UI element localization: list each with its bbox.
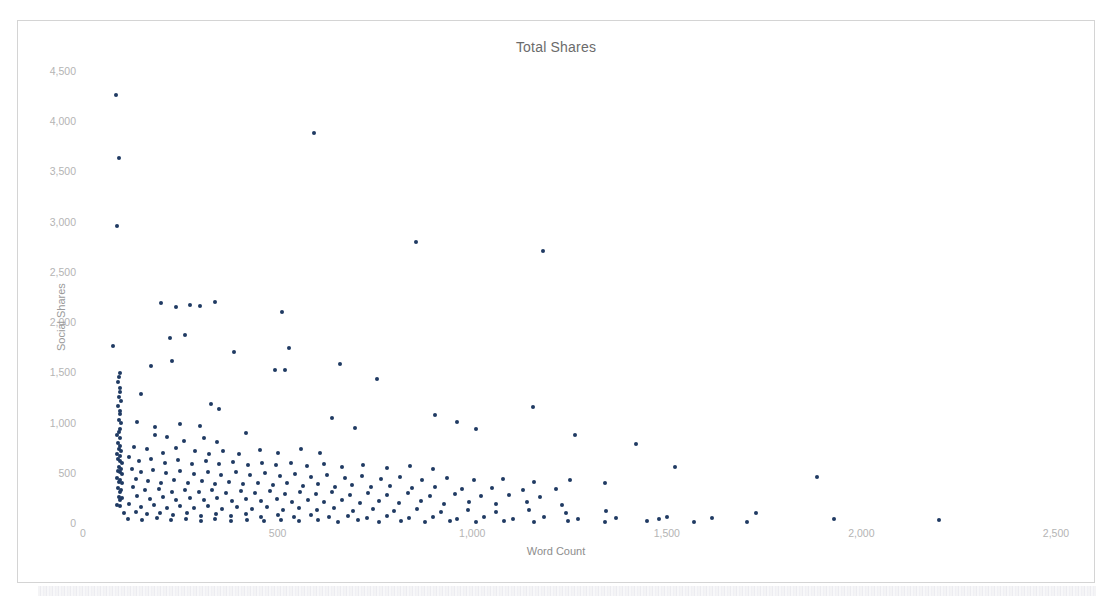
scatter-point[interactable]: [455, 517, 459, 521]
scatter-point[interactable]: [213, 517, 217, 521]
scatter-point[interactable]: [192, 506, 196, 510]
scatter-point[interactable]: [309, 475, 313, 479]
scatter-point[interactable]: [832, 517, 836, 521]
scatter-point[interactable]: [197, 490, 201, 494]
scatter-point[interactable]: [262, 519, 266, 523]
scatter-point[interactable]: [560, 503, 564, 507]
scatter-point[interactable]: [213, 300, 217, 304]
scatter-point[interactable]: [137, 459, 141, 463]
scatter-point[interactable]: [325, 473, 329, 477]
scatter-point[interactable]: [111, 344, 115, 348]
scatter-point[interactable]: [614, 516, 618, 520]
scatter-point[interactable]: [554, 487, 558, 491]
scatter-point[interactable]: [145, 512, 149, 516]
scatter-point[interactable]: [428, 494, 432, 498]
scatter-point[interactable]: [338, 362, 342, 366]
scatter-point[interactable]: [542, 515, 546, 519]
scatter-point[interactable]: [244, 497, 248, 501]
scatter-point[interactable]: [692, 520, 696, 524]
scatter-point[interactable]: [120, 461, 124, 465]
scatter-point[interactable]: [566, 519, 570, 523]
scatter-point[interactable]: [210, 488, 214, 492]
scatter-point[interactable]: [155, 516, 159, 520]
scatter-point[interactable]: [467, 500, 471, 504]
scatter-point[interactable]: [634, 442, 638, 446]
scatter-point[interactable]: [149, 457, 153, 461]
scatter-point[interactable]: [260, 461, 264, 465]
scatter-point[interactable]: [420, 478, 424, 482]
scatter-point[interactable]: [645, 519, 649, 523]
scatter-point[interactable]: [117, 375, 121, 379]
scatter-point[interactable]: [178, 422, 182, 426]
scatter-point[interactable]: [408, 464, 412, 468]
scatter-point[interactable]: [206, 470, 210, 474]
scatter-point[interactable]: [229, 519, 233, 523]
scatter-point[interactable]: [118, 371, 122, 375]
scatter-point[interactable]: [442, 502, 446, 506]
scatter-point[interactable]: [199, 514, 203, 518]
scatter-point[interactable]: [114, 93, 118, 97]
scatter-point[interactable]: [119, 449, 123, 453]
scatter-point[interactable]: [406, 491, 410, 495]
scatter-point[interactable]: [127, 455, 131, 459]
scatter-point[interactable]: [385, 466, 389, 470]
scatter-point[interactable]: [192, 472, 196, 476]
scatter-point[interactable]: [299, 447, 303, 451]
scatter-point[interactable]: [221, 449, 225, 453]
scatter-point[interactable]: [209, 402, 213, 406]
scatter-point[interactable]: [340, 465, 344, 469]
scatter-point[interactable]: [541, 249, 545, 253]
scatter-point[interactable]: [564, 511, 568, 515]
scatter-point[interactable]: [235, 505, 239, 509]
scatter-point[interactable]: [231, 460, 235, 464]
scatter-point[interactable]: [673, 465, 677, 469]
scatter-point[interactable]: [474, 427, 478, 431]
scatter-point[interactable]: [433, 413, 437, 417]
scatter-point[interactable]: [276, 451, 280, 455]
scatter-point[interactable]: [273, 368, 277, 372]
scatter-point[interactable]: [657, 517, 661, 521]
scatter-point[interactable]: [439, 510, 443, 514]
scatter-point[interactable]: [118, 490, 122, 494]
scatter-point[interactable]: [259, 515, 263, 519]
scatter-point[interactable]: [159, 301, 163, 305]
scatter-point[interactable]: [163, 461, 167, 465]
scatter-point[interactable]: [188, 303, 192, 307]
scatter-point[interactable]: [531, 405, 535, 409]
scatter-point[interactable]: [482, 515, 486, 519]
scatter-point[interactable]: [332, 506, 336, 510]
scatter-point[interactable]: [172, 478, 176, 482]
scatter-point[interactable]: [369, 485, 373, 489]
scatter-point[interactable]: [385, 514, 389, 518]
scatter-point[interactable]: [573, 433, 577, 437]
scatter-point[interactable]: [306, 498, 310, 502]
scatter-point[interactable]: [148, 497, 152, 501]
scatter-point[interactable]: [287, 346, 291, 350]
scatter-point[interactable]: [118, 412, 122, 416]
scatter-point[interactable]: [366, 491, 370, 495]
scatter-point[interactable]: [244, 512, 248, 516]
scatter-point[interactable]: [126, 517, 130, 521]
scatter-point[interactable]: [532, 520, 536, 524]
scatter-point[interactable]: [280, 310, 284, 314]
scatter-point[interactable]: [371, 507, 375, 511]
scatter-point[interactable]: [327, 515, 331, 519]
scatter-point[interactable]: [220, 507, 224, 511]
scatter-point[interactable]: [527, 508, 531, 512]
scatter-point[interactable]: [183, 333, 187, 337]
scatter-point[interactable]: [305, 464, 309, 468]
scatter-point[interactable]: [431, 467, 435, 471]
scatter-point[interactable]: [431, 515, 435, 519]
scatter-point[interactable]: [202, 498, 206, 502]
scatter-point[interactable]: [258, 448, 262, 452]
scatter-point[interactable]: [182, 439, 186, 443]
scatter-point[interactable]: [281, 508, 285, 512]
scatter-point[interactable]: [815, 475, 819, 479]
scatter-point[interactable]: [525, 500, 529, 504]
scatter-point[interactable]: [604, 509, 608, 513]
scatter-point[interactable]: [937, 518, 941, 522]
scatter-point[interactable]: [248, 473, 252, 477]
scatter-point[interactable]: [134, 477, 138, 481]
scatter-point[interactable]: [224, 491, 228, 495]
scatter-point[interactable]: [135, 420, 139, 424]
